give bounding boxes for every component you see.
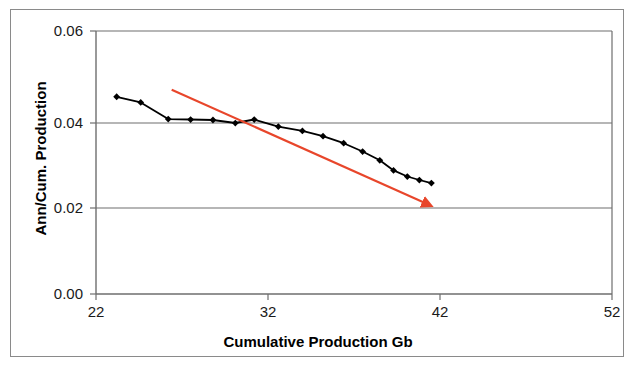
y-axis-title: Ann/Cum. Production (32, 44, 49, 274)
data-point-marker (299, 128, 306, 135)
data-series-line (117, 97, 432, 183)
ytick-label-0.00: 0.00 (28, 285, 83, 302)
data-point-marker (113, 93, 120, 100)
data-series-markers (113, 93, 435, 186)
data-point-marker (251, 116, 258, 123)
xtick-label-52: 52 (592, 303, 632, 320)
trend-arrow (172, 90, 425, 203)
series-polyline (117, 97, 432, 183)
data-point-marker (404, 173, 411, 180)
xtick-label-22: 22 (76, 303, 116, 320)
data-point-marker (187, 116, 194, 123)
data-point-marker (359, 148, 366, 155)
xtick-label-42: 42 (420, 303, 460, 320)
data-point-marker (210, 117, 217, 124)
data-point-marker (275, 123, 282, 130)
data-point-marker (428, 180, 435, 187)
plot-gridlines (96, 31, 612, 294)
trend-arrow-group (172, 90, 425, 203)
x-axis-title: Cumulative Production Gb (0, 333, 636, 350)
data-point-marker (320, 133, 327, 140)
xtick-label-32: 32 (248, 303, 288, 320)
chart-figure: 0.06 0.04 0.02 0.00 22 32 42 52 Cumulati… (0, 0, 636, 368)
data-point-marker (340, 140, 347, 147)
data-point-marker (232, 120, 239, 127)
axis-ticks (90, 31, 612, 300)
ytick-label-0.06: 0.06 (28, 22, 83, 39)
data-point-marker (416, 177, 423, 184)
